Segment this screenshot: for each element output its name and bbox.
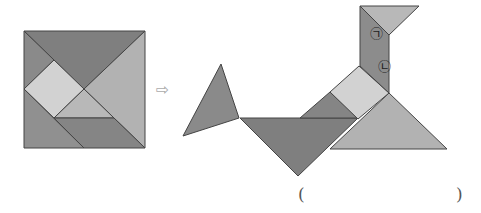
tail-triangle <box>183 64 239 136</box>
tangram-bird <box>183 6 447 176</box>
tangram-figure: ㉠㉡ ⇨ <box>0 0 481 213</box>
tangram-square <box>24 31 145 148</box>
arrow-right-icon: ⇨ <box>156 80 169 99</box>
label-giyeok: ㉠ <box>370 26 383 41</box>
answer-open-paren: ( <box>298 184 305 204</box>
label-nieun: ㉡ <box>378 59 391 74</box>
answer-close-paren: ) <box>456 184 463 204</box>
